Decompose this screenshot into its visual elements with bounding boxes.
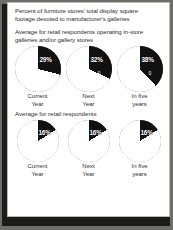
pie-sub-mark: 0 — [98, 70, 101, 76]
figure-container: Percent of furniture stores' total displ… — [0, 0, 173, 230]
pie-caption: Current Year — [27, 93, 47, 108]
pie-cell-next-year-top: 32% 0 Next Year — [64, 46, 114, 108]
figure-title-line-2: footage devoted to manufacturer's galler… — [15, 15, 163, 23]
pie-value-label: 29% — [40, 56, 52, 63]
pie-caption-line-1: Current — [27, 93, 47, 101]
pie-cell-current-year-top: 29% Current Year — [13, 46, 63, 108]
figure-subtitle-line-1: Average for retail respondents operating… — [15, 28, 163, 36]
chart-card: Percent of furniture stores' total displ… — [7, 2, 170, 217]
header-text-block: Percent of furniture stores' total displ… — [8, 3, 169, 44]
pie-chart-in-five-years-top: 38% 0 — [117, 46, 163, 92]
pie-caption-line-2: years — [131, 171, 147, 179]
pie-wedge — [68, 120, 110, 162]
pie-caption-line-2: Year — [27, 171, 47, 179]
pie-wedge — [66, 46, 112, 92]
pie-cell-in-five-years-bottom: 16% In five years — [115, 120, 165, 178]
pie-row-bottom: 16% Current Year 16% Next Year — [8, 120, 169, 178]
section-label-retail-respondents: Average for retail respondents — [8, 110, 169, 118]
pie-value-label: 38% — [142, 56, 154, 63]
pie-row-top: 29% Current Year 32% 0 Next Year — [8, 46, 169, 108]
pie-caption: Current Year — [27, 163, 47, 178]
pie-caption-line-1: In five — [131, 93, 147, 101]
pie-caption-line-2: years — [131, 101, 147, 109]
pie-cell-next-year-bottom: 16% Next Year — [64, 120, 114, 178]
pie-value-label: 16% — [90, 129, 102, 136]
pie-wedge — [15, 46, 61, 92]
pie-chart-next-year-bottom: 16% — [68, 120, 110, 162]
pie-chart-next-year-top: 32% 0 — [66, 46, 112, 92]
pie-caption-line-1: In five — [131, 163, 147, 171]
pie-wedge — [119, 120, 161, 162]
pie-caption: In five years — [131, 163, 147, 178]
pie-caption-line-1: Current — [27, 163, 47, 171]
pie-caption-line-1: Next — [82, 163, 94, 171]
pie-cell-current-year-bottom: 16% Current Year — [13, 120, 63, 178]
pie-caption: In five years — [131, 93, 147, 108]
pie-caption-line-2: Year — [27, 101, 47, 109]
pie-value-label: 16% — [141, 129, 153, 136]
figure-subtitle-line-2: galleries and/or gallery stores — [15, 36, 163, 44]
pie-value-label: 16% — [39, 129, 51, 136]
pie-caption: Next Year — [82, 163, 94, 178]
pie-cell-in-five-years-top: 38% 0 In five years — [115, 46, 165, 108]
pie-caption-line-2: Year — [82, 101, 94, 109]
pie-caption-line-2: Year — [82, 171, 94, 179]
pie-value-label: 32% — [91, 56, 103, 63]
figure-title-line-1: Percent of furniture stores' total displ… — [15, 7, 163, 15]
pie-chart-current-year-top: 29% — [15, 46, 61, 92]
pie-chart-current-year-bottom: 16% — [17, 120, 59, 162]
pie-caption: Next Year — [82, 93, 94, 108]
pie-wedge — [117, 46, 163, 92]
pie-sub-mark: 0 — [149, 70, 152, 76]
pie-wedge — [17, 120, 59, 162]
pie-chart-in-five-years-bottom: 16% — [119, 120, 161, 162]
pie-caption-line-1: Next — [82, 93, 94, 101]
